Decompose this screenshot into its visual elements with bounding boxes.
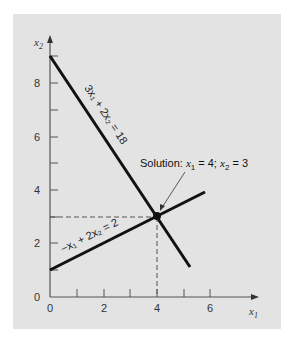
y-tick-label: 0	[34, 291, 40, 303]
y-tick-label: 8	[34, 77, 40, 89]
y-axis-arrow-icon	[47, 35, 53, 43]
y-tick-label: 6	[34, 131, 40, 143]
x-tick-label: 6	[207, 302, 213, 314]
arrowhead-icon	[160, 204, 165, 211]
series-line-2	[50, 192, 205, 270]
y-axis-title: x2	[33, 36, 43, 51]
x-tick-label: 2	[101, 302, 107, 314]
chart-plot: 0 2 4 6 0 2 4 6 8 x1 x2 Solution: x1 = 4…	[0, 0, 294, 339]
y-ticks	[50, 56, 58, 270]
x-tick-label: 0	[47, 302, 53, 314]
solution-annotation: Solution: x1 = 4; x2 = 3	[140, 157, 248, 172]
x-tick-label: 4	[154, 302, 160, 314]
x-axis-arrow-icon	[251, 294, 259, 300]
x-ticks	[77, 289, 210, 297]
y-tick-label: 4	[34, 184, 40, 196]
x-axis-title: x1	[248, 305, 258, 320]
y-tick-label: 2	[34, 237, 40, 249]
solution-point	[153, 212, 161, 220]
